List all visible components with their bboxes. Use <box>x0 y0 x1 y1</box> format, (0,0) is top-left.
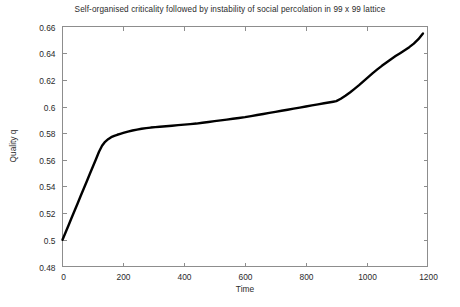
x-tick-label: 1200 <box>419 272 438 282</box>
x-axis-ticks <box>124 27 368 267</box>
x-tick-label: 800 <box>300 272 314 282</box>
y-axis-tick-labels: 0.480.50.520.540.560.580.60.620.640.66 <box>39 23 56 273</box>
axis-frame <box>63 27 428 267</box>
y-tick-label: 0.56 <box>39 156 56 166</box>
y-tick-label: 0.62 <box>39 76 56 86</box>
y-axis-ticks <box>63 54 428 241</box>
chart-figure: Self-organised criticality followed by i… <box>0 0 460 307</box>
x-axis-title: Time <box>236 284 255 294</box>
x-tick-label: 200 <box>117 272 131 282</box>
y-tick-label: 0.48 <box>39 263 56 273</box>
x-axis-tick-labels: 020040060080010001200 <box>61 272 438 282</box>
y-tick-label: 0.6 <box>44 103 56 113</box>
x-tick-label: 600 <box>239 272 253 282</box>
x-tick-label: 0 <box>61 272 66 282</box>
y-tick-label: 0.66 <box>39 23 56 33</box>
y-axis-title: Quality q <box>8 129 18 162</box>
plot-area: 020040060080010001200 0.480.50.520.540.5… <box>0 0 460 307</box>
plot-frame <box>63 27 428 267</box>
y-tick-label: 0.64 <box>39 49 56 59</box>
y-tick-label: 0.54 <box>39 182 56 192</box>
data-series-quality-q <box>63 33 423 239</box>
y-tick-label: 0.52 <box>39 209 56 219</box>
x-tick-label: 1000 <box>358 272 377 282</box>
x-tick-label: 400 <box>178 272 192 282</box>
y-tick-label: 0.5 <box>44 236 56 246</box>
y-tick-label: 0.58 <box>39 129 56 139</box>
